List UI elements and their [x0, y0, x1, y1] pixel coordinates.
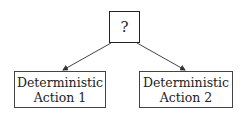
edge-root-to-action-2	[137, 43, 185, 70]
node-line-2: Action 2	[160, 90, 213, 105]
node-line-1: Deterministic	[143, 75, 229, 90]
node-line-2: Action 1	[34, 90, 87, 105]
node-deterministic-action-1: Deterministic Action 1	[14, 71, 106, 108]
node-line-1: Deterministic	[17, 75, 103, 90]
root-node-unknown: ?	[109, 11, 140, 43]
edge-root-to-action-1	[63, 43, 111, 70]
root-node-label: ?	[120, 18, 128, 36]
node-deterministic-action-2: Deterministic Action 2	[139, 71, 233, 108]
